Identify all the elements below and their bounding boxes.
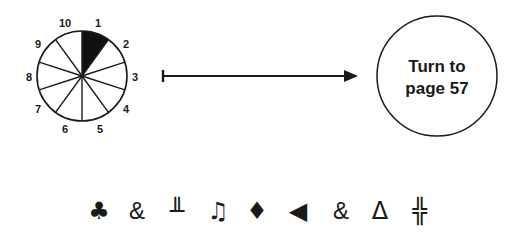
ampersand-icon: & <box>328 193 354 229</box>
double-cross-icon: ╬ <box>407 193 433 229</box>
double-up-tack-icon: ╨ <box>164 193 190 229</box>
ampersand-icon: & <box>124 193 150 229</box>
left-triangle-icon: ◀ <box>285 193 311 229</box>
delta-icon: Δ <box>367 193 393 229</box>
club-icon: ♣ <box>86 193 112 229</box>
spinner-diagram: 1 2 3 4 5 6 7 8 9 10 Turn to page 57 <box>0 0 527 160</box>
dial-label-10: 10 <box>59 17 71 29</box>
dial-label-3: 3 <box>132 71 138 83</box>
dial-label-9: 9 <box>35 38 41 50</box>
destination-line-2: page 57 <box>405 79 468 98</box>
destination-line-1: Turn to <box>408 57 465 76</box>
diamond-icon: ♦ <box>244 193 270 229</box>
right-arrow-icon <box>163 70 358 82</box>
destination-circle: Turn to page 57 <box>377 16 497 136</box>
dial-label-2: 2 <box>123 38 129 50</box>
spinner-dial: 1 2 3 4 5 6 7 8 9 10 <box>26 17 138 135</box>
dial-label-8: 8 <box>26 71 32 83</box>
dial-label-7: 7 <box>35 103 41 115</box>
dial-label-6: 6 <box>62 123 68 135</box>
dial-label-5: 5 <box>97 123 103 135</box>
symbol-sequence: ♣ & ╨ ♫ ♦ ◀ & Δ ╬ <box>0 193 527 233</box>
dial-label-4: 4 <box>123 103 130 115</box>
music-notes-icon: ♫ <box>205 193 231 229</box>
dial-label-1: 1 <box>95 17 101 29</box>
